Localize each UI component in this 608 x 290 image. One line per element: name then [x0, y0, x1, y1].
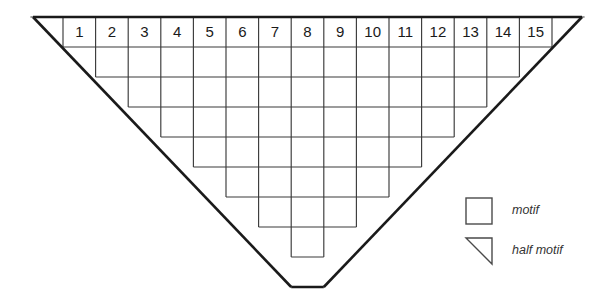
triangle-outline-layer — [33, 17, 582, 287]
column-number-9: 9 — [336, 23, 344, 40]
column-number-15: 15 — [527, 23, 544, 40]
column-number-1: 1 — [75, 23, 83, 40]
column-number-2: 2 — [108, 23, 116, 40]
figure-canvas: 123456789101112131415 motifhalf motif — [0, 0, 608, 290]
legend-motif-square — [466, 198, 492, 224]
column-number-10: 10 — [364, 23, 381, 40]
column-number-7: 7 — [271, 23, 279, 40]
column-number-4: 4 — [173, 23, 181, 40]
column-number-13: 13 — [462, 23, 479, 40]
legend-layer: motifhalf motif — [466, 198, 564, 264]
column-number-3: 3 — [140, 23, 148, 40]
grid-lines-layer — [30, 17, 584, 257]
column-number-5: 5 — [206, 23, 214, 40]
legend-label-motif: motif — [512, 203, 541, 217]
legend-half-motif-triangle — [466, 238, 492, 264]
column-number-11: 11 — [398, 23, 414, 40]
triangle-left-edge — [33, 17, 291, 287]
column-number-14: 14 — [495, 23, 512, 40]
legend-label-half-motif: half motif — [512, 243, 564, 257]
column-number-12: 12 — [430, 23, 447, 40]
column-numbers-layer: 123456789101112131415 — [75, 23, 544, 40]
motif-triangle-diagram: 123456789101112131415 motifhalf motif — [0, 0, 608, 290]
column-number-8: 8 — [303, 23, 311, 40]
column-number-6: 6 — [238, 23, 246, 40]
